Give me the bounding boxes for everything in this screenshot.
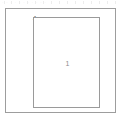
header-tick-4: [35, 1, 36, 4]
header-tick-8: [67, 1, 68, 4]
header-tick-5: [43, 1, 44, 4]
diagram-canvas: · · · · · · · · · · · A 1: [0, 0, 122, 121]
header-tick-1: [11, 1, 12, 4]
header-tick-12: [99, 1, 100, 4]
header-tick-2: [19, 1, 20, 4]
header-tick-13: [107, 1, 108, 4]
center-label-one: 1: [34, 18, 101, 109]
header-tick-11: [91, 1, 92, 4]
header-tick-0: [4, 1, 5, 4]
header-tick-3: [27, 1, 28, 4]
header-tick-6: [51, 1, 52, 4]
header-tick-7: [59, 1, 60, 4]
header-tick-10: [83, 1, 84, 4]
outer-rectangle[interactable]: A 1: [5, 8, 116, 113]
inner-rectangle[interactable]: 1: [33, 17, 100, 108]
header-tick-row: [0, 1, 122, 5]
header-tick-14: [115, 1, 116, 4]
header-strip: · · · · · · · · · · ·: [0, 0, 122, 7]
header-tick-9: [75, 1, 76, 4]
